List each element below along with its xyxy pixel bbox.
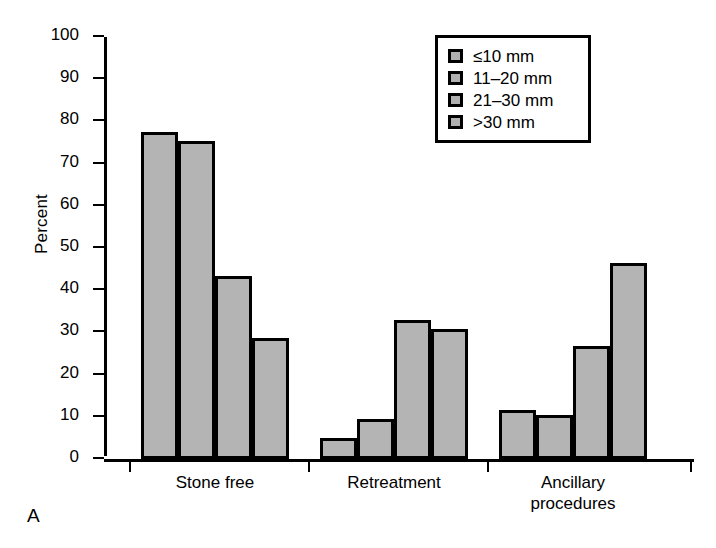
y-tick-label: 50 xyxy=(60,237,79,254)
bar xyxy=(320,438,357,459)
y-tick-label: 30 xyxy=(60,321,79,338)
y-tick-90: 90 xyxy=(93,77,104,79)
bar xyxy=(215,276,252,459)
legend: ≤10 mm11–20 mm21–30 mm>30 mm xyxy=(435,35,591,143)
legend-label: 21–30 mm xyxy=(473,92,553,109)
bar xyxy=(141,132,178,459)
legend-swatch-icon xyxy=(448,93,463,107)
legend-swatch-icon xyxy=(448,49,463,63)
y-tick-label: 100 xyxy=(51,26,79,43)
y-tick-0: 0 xyxy=(93,457,104,459)
y-tick-label: 40 xyxy=(60,279,79,296)
y-tick-label: 80 xyxy=(60,110,79,127)
y-tick-50: 50 xyxy=(93,246,104,248)
y-tick-60: 60 xyxy=(93,204,104,206)
bar xyxy=(610,263,647,459)
y-axis-label: Percent xyxy=(32,164,52,284)
legend-label: 11–20 mm xyxy=(473,70,552,87)
y-tick-label: 10 xyxy=(60,406,79,423)
x-tick xyxy=(308,462,310,472)
bar xyxy=(431,329,468,459)
legend-swatch-icon xyxy=(448,71,463,85)
y-tick-70: 70 xyxy=(93,162,104,164)
legend-item: >30 mm xyxy=(448,111,588,133)
bar xyxy=(394,320,431,459)
bar xyxy=(499,410,536,459)
y-tick-label: 70 xyxy=(60,153,79,170)
x-tick xyxy=(487,462,489,472)
y-tick-80: 80 xyxy=(93,119,104,121)
legend-label: ≤10 mm xyxy=(473,48,534,65)
y-tick-20: 20 xyxy=(93,373,104,375)
bar xyxy=(252,338,289,459)
plot-area: 0102030405060708090100 xyxy=(104,30,694,462)
y-tick-10: 10 xyxy=(93,415,104,417)
y-axis-line xyxy=(104,37,107,456)
y-tick-label: 90 xyxy=(60,68,79,85)
bar xyxy=(536,415,573,459)
x-tick-end xyxy=(690,462,692,472)
y-tick-100: 100 xyxy=(93,35,104,37)
bar xyxy=(178,141,215,459)
y-tick-30: 30 xyxy=(93,330,104,332)
y-tick-label: 20 xyxy=(60,364,79,381)
bar xyxy=(357,419,394,459)
figure-panel: Percent 0102030405060708090100 Stone fre… xyxy=(0,0,716,548)
bar xyxy=(573,346,610,459)
legend-label: >30 mm xyxy=(473,114,535,131)
legend-item: ≤10 mm xyxy=(448,45,588,67)
y-tick-label: 60 xyxy=(60,195,79,212)
legend-item: 21–30 mm xyxy=(448,89,588,111)
group-label: Ancillary procedures xyxy=(459,472,687,514)
panel-letter: A xyxy=(27,505,40,527)
legend-item: 11–20 mm xyxy=(448,67,588,89)
legend-swatch-icon xyxy=(448,115,463,129)
x-axis-line xyxy=(104,459,694,462)
y-tick-40: 40 xyxy=(93,288,104,290)
x-tick xyxy=(129,462,131,472)
y-tick-label: 0 xyxy=(70,448,79,465)
